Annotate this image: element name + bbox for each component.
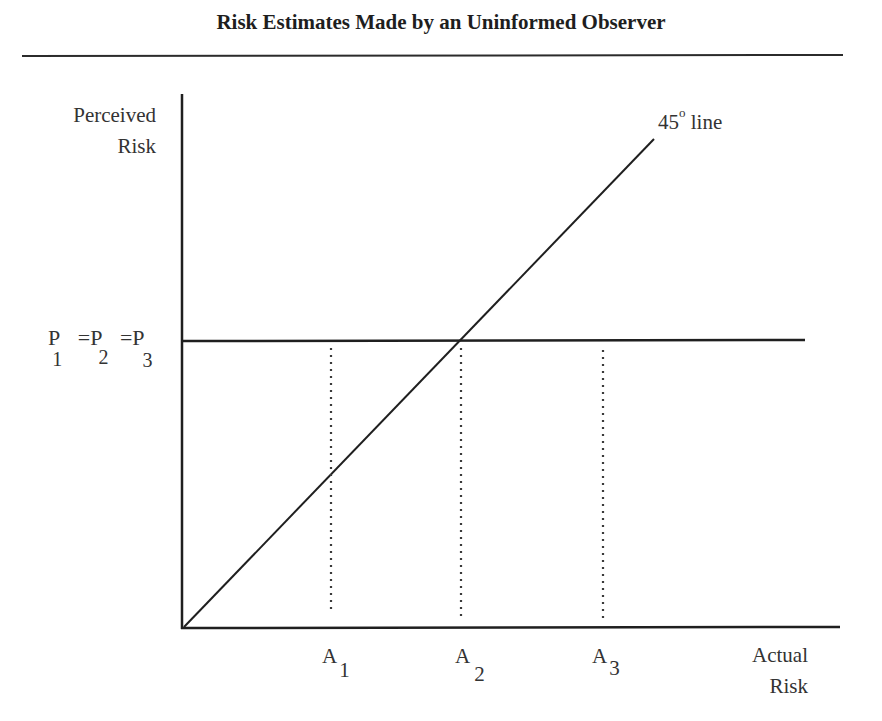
p3-subscript: 3 bbox=[143, 349, 153, 371]
tick-a2-letter: A bbox=[455, 644, 470, 668]
equals-sign-2: = bbox=[120, 325, 132, 350]
forty-five-degree-line bbox=[184, 139, 654, 627]
x-axis-label: Actual Risk bbox=[700, 645, 808, 697]
tick-a1-subscript: 1 bbox=[339, 658, 350, 682]
p1-symbol: P bbox=[48, 325, 60, 350]
tick-a1: A 1 bbox=[322, 646, 352, 667]
tick-a2: A2 bbox=[455, 646, 481, 667]
tick-a2-subscript: 2 bbox=[474, 662, 485, 686]
p3-symbol: P bbox=[132, 325, 144, 350]
equals-sign-1: = bbox=[78, 325, 90, 350]
perceived-risk-label: P1 =P2 =P3 bbox=[48, 327, 155, 349]
y-axis-label-line1: Perceived bbox=[40, 105, 156, 126]
tick-a3-letter: A bbox=[592, 644, 606, 668]
perceived-risk-line bbox=[182, 340, 805, 341]
tick-a3: A 3 bbox=[592, 646, 622, 667]
tick-a3-subscript: 3 bbox=[609, 656, 620, 680]
p1-subscript: 1 bbox=[52, 348, 62, 370]
forty-five-number: 45 bbox=[658, 110, 679, 134]
p2-subscript: 2 bbox=[98, 346, 108, 368]
x-axis-label-line2: Risk bbox=[700, 676, 808, 697]
line-word: line bbox=[686, 110, 723, 134]
forty-five-degree-label: 45o line bbox=[658, 112, 722, 133]
y-axis-label: Perceived Risk bbox=[40, 105, 156, 157]
degree-symbol: o bbox=[679, 105, 686, 120]
x-axis-label-line1: Actual bbox=[700, 645, 808, 666]
tick-a1-letter: A bbox=[322, 644, 336, 668]
y-axis-label-line2: Risk bbox=[40, 136, 156, 157]
title-rule bbox=[22, 55, 843, 56]
x-axis bbox=[181, 627, 840, 628]
